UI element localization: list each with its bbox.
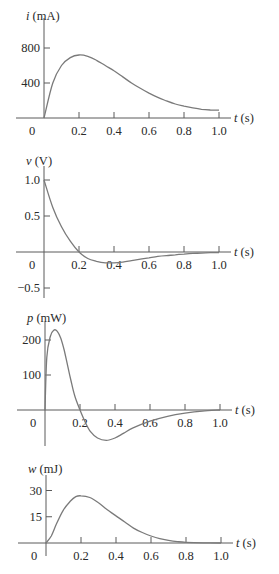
x-tick-label: 0.2 <box>73 549 89 563</box>
y-tick-label: 100 <box>22 368 41 382</box>
voltage-chart: v (V)t (s)00.20.40.60.81.01.00.5−0.5 <box>16 154 254 298</box>
current-chart: i (mA)t (s)00.20.40.60.81.0800400 <box>16 9 254 138</box>
x-tick-label: 0.8 <box>177 416 193 430</box>
x-tick-label: 0.6 <box>141 124 157 138</box>
y-tick-label: −0.5 <box>17 281 40 295</box>
power-chart: p (mW)t (s)00.20.40.60.81.0200100 <box>17 311 255 446</box>
x-tick-label: 1.0 <box>213 549 229 563</box>
y-tick-label: 0.5 <box>24 209 40 223</box>
y-tick-label: 400 <box>21 76 40 90</box>
x-tick-label: 0.2 <box>71 258 87 272</box>
x-axis-label: t (s) <box>236 536 256 550</box>
y-axis-label: v (V) <box>26 154 52 168</box>
x-tick-label: 0.4 <box>107 416 123 430</box>
y-tick-label: 30 <box>30 484 43 498</box>
y-axis-label: i (mA) <box>26 9 60 23</box>
y-tick-label: 1.0 <box>24 173 40 187</box>
x-tick-label: 0.8 <box>178 549 194 563</box>
y-axis-label: p (mW) <box>26 311 66 325</box>
origin-label: 0 <box>29 124 35 138</box>
x-axis-label: t (s) <box>234 245 254 259</box>
origin-label: 0 <box>29 258 35 272</box>
origin-label: 0 <box>30 416 36 430</box>
y-tick-label: 15 <box>30 510 43 524</box>
y-axis-label: w (mJ) <box>28 462 62 476</box>
x-tick-label: 0.6 <box>141 258 157 272</box>
x-tick-label: 0.8 <box>176 124 192 138</box>
y-tick-label: 200 <box>22 333 41 347</box>
y-tick-label: 800 <box>21 41 40 55</box>
x-axis-label: t (s) <box>235 403 255 417</box>
v-curve <box>44 180 219 263</box>
x-axis-label: t (s) <box>234 111 254 125</box>
energy-chart: w (mJ)t (s)00.20.40.60.81.03015 <box>18 462 256 563</box>
x-tick-label: 1.0 <box>212 416 228 430</box>
x-tick-label: 0.8 <box>176 258 192 272</box>
origin-label: 0 <box>31 549 37 563</box>
w-curve <box>46 496 221 543</box>
x-tick-label: 0.4 <box>108 549 124 563</box>
x-tick-label: 0.6 <box>143 549 159 563</box>
x-tick-label: 0.4 <box>106 124 122 138</box>
x-tick-label: 1.0 <box>211 258 227 272</box>
x-tick-label: 0.4 <box>106 258 122 272</box>
chart-stack: i (mA)t (s)00.20.40.60.81.0800400 v (V)t… <box>0 0 279 574</box>
x-tick-label: 0.2 <box>71 124 87 138</box>
i-curve <box>44 55 219 118</box>
x-tick-label: 1.0 <box>211 124 227 138</box>
